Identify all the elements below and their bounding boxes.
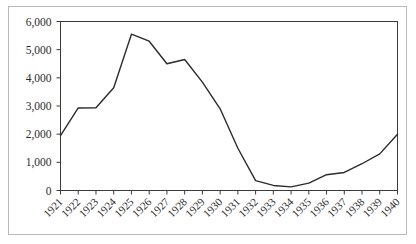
plot-border (61, 22, 398, 191)
data-line-series-1 (61, 34, 398, 187)
y-axis-tick-label: 5,000 (26, 44, 52, 57)
x-axis: 1921192219231924192519261927192819291930… (41, 191, 402, 220)
y-axis: 01,0002,0003,0004,0005,0006,000 (26, 16, 61, 197)
line-chart: 01,0002,0003,0004,0005,0006,000 19211922… (0, 0, 416, 244)
plot-area (61, 22, 398, 191)
y-axis-tick-label: 1,000 (26, 156, 52, 169)
data-series-group (61, 34, 398, 187)
y-axis-tick-label: 4,000 (26, 72, 52, 85)
x-axis-tick-label: 1940 (378, 195, 402, 219)
y-axis-tick-label: 2,000 (26, 128, 52, 141)
y-axis-tick-label: 3,000 (26, 100, 52, 113)
y-axis-tick-label: 6,000 (26, 16, 52, 29)
y-axis-tick-label: 0 (46, 185, 52, 197)
chart-figure: 01,0002,0003,0004,0005,0006,000 19211922… (0, 0, 416, 244)
